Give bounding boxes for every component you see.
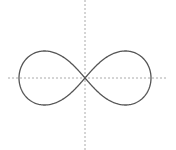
diagram-svg [0,0,176,150]
lemniscate-diagram [0,0,176,150]
